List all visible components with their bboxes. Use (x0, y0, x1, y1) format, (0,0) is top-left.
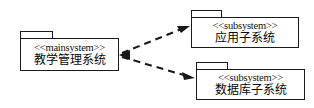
dependency-main-to-db (122, 57, 195, 80)
package-name-application-subsystem: 应用子系统 (215, 32, 275, 45)
package-stereotype-database-subsystem: <<subsystem>> (218, 72, 283, 83)
dashed-line-main-to-app (122, 28, 184, 53)
uml-package-diagram: <<mainsystem>> 教学管理系统 <<subsystem>> 应用子系… (0, 0, 314, 108)
dashed-line-main-to-db (122, 57, 187, 76)
package-database-subsystem[interactable]: <<subsystem>> 数据库子系统 (196, 69, 305, 100)
package-mainsystem[interactable]: <<mainsystem>> 教学管理系统 (20, 38, 119, 71)
dependency-main-to-app (122, 26, 190, 53)
arrowhead-db (182, 72, 195, 80)
package-stereotype-mainsystem: <<mainsystem>> (34, 42, 105, 53)
package-application-subsystem[interactable]: <<subsystem>> 应用子系统 (191, 17, 299, 48)
package-stereotype-application-subsystem: <<subsystem>> (213, 20, 278, 31)
package-name-database-subsystem: 数据库子系统 (215, 84, 287, 97)
package-name-mainsystem: 教学管理系统 (34, 54, 106, 67)
